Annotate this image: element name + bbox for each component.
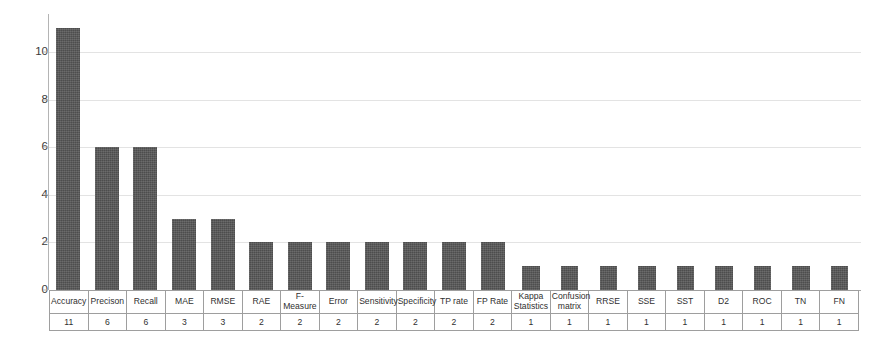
bar [792, 266, 809, 290]
metric-count-cell: 3 [165, 314, 204, 331]
metric-count-label: 6 [128, 317, 164, 327]
bar [561, 266, 578, 290]
data-table-body: AccuracyPrecisonRecallMAERMSERAEF-Measur… [50, 291, 859, 331]
bar [522, 266, 539, 290]
metric-name-label: TP rate [436, 297, 472, 307]
metric-name-row: AccuracyPrecisonRecallMAERMSERAEF-Measur… [50, 291, 859, 314]
metric-count-cell: 1 [704, 314, 743, 331]
metric-count-label: 2 [321, 317, 357, 327]
metric-name-cell: MAE [165, 291, 204, 314]
metric-name-label: Error [321, 297, 357, 307]
metric-name-cell: F-Measure [281, 291, 320, 314]
metric-name-label: Recall [128, 297, 164, 307]
metric-count-label: 11 [51, 317, 87, 327]
metric-count-label: 1 [821, 317, 857, 327]
metric-name-label: F-Measure [282, 292, 318, 312]
metric-count-cell: 6 [88, 314, 127, 331]
bar [288, 242, 312, 290]
metric-name-cell: Accuracy [50, 291, 89, 314]
metric-name-label: Precison [90, 297, 126, 307]
metric-count-cell: 1 [627, 314, 666, 331]
metric-name-label: RAE [244, 297, 280, 307]
metric-count-cell: 2 [319, 314, 358, 331]
data-table: AccuracyPrecisonRecallMAERMSERAEF-Measur… [49, 290, 859, 331]
y-axis: 0246810 [26, 14, 48, 290]
y-axis-tick [43, 147, 48, 148]
metric-name-label: Specificity [398, 297, 434, 307]
bar [56, 28, 80, 290]
y-axis-tick [43, 99, 48, 100]
metric-name-cell: FN [820, 291, 859, 314]
metric-name-cell: RRSE [589, 291, 628, 314]
metric-name-label: FN [821, 297, 857, 307]
metric-name-cell: RMSE [204, 291, 243, 314]
bar [365, 242, 389, 290]
metric-name-cell: Kappa Statistics [512, 291, 551, 314]
metric-name-label: MAE [167, 297, 203, 307]
metric-count-cell: 2 [435, 314, 474, 331]
metric-count-label: 2 [398, 317, 434, 327]
metric-name-cell: SSE [627, 291, 666, 314]
y-axis-tick [43, 290, 48, 291]
metric-name-label: RRSE [590, 297, 626, 307]
metric-count-label: 2 [282, 317, 318, 327]
metric-name-label: Accuracy [51, 297, 87, 307]
metric-name-cell: TP rate [435, 291, 474, 314]
metric-count-cell: 1 [550, 314, 589, 331]
bar-chart: 0246810 AccuracyPrecisonRecallMAERMSERAE… [0, 0, 885, 363]
metric-name-cell: Specificity [396, 291, 435, 314]
metric-name-cell: Error [319, 291, 358, 314]
bar [326, 242, 350, 290]
bar [442, 242, 466, 290]
metric-count-label: 1 [706, 317, 742, 327]
metric-count-label: 3 [167, 317, 203, 327]
metric-count-cell: 2 [358, 314, 397, 331]
bar [600, 266, 617, 290]
metric-name-cell: Precison [88, 291, 127, 314]
metric-count-label: 2 [244, 317, 280, 327]
metric-name-label: D2 [706, 297, 742, 307]
bar [831, 266, 848, 290]
metric-name-cell: ROC [743, 291, 782, 314]
bar [211, 219, 235, 290]
metric-count-label: 1 [513, 317, 549, 327]
metric-name-cell: TN [781, 291, 820, 314]
metric-count-row: 1166332222222111111111 [50, 314, 859, 331]
metric-count-cell: 2 [396, 314, 435, 331]
metric-count-cell: 1 [820, 314, 859, 331]
bar [133, 147, 157, 290]
bar [754, 266, 771, 290]
bar [638, 266, 655, 290]
metric-name-label: SSE [629, 297, 665, 307]
metric-name-cell: SST [666, 291, 705, 314]
plot-region: 0246810 [26, 14, 861, 290]
bar [95, 147, 119, 290]
metric-count-cell: 2 [242, 314, 281, 331]
metric-count-label: 2 [475, 317, 511, 327]
bar [715, 266, 732, 290]
metric-name-label: TN [783, 297, 819, 307]
bar [677, 266, 694, 290]
metric-count-cell: 1 [666, 314, 705, 331]
y-axis-tick [43, 194, 48, 195]
metric-name-label: SST [667, 297, 703, 307]
y-axis-tick [43, 242, 48, 243]
metric-name-cell: FP Rate [473, 291, 512, 314]
metric-name-cell: Confusion matrix [550, 291, 589, 314]
metric-count-label: 3 [205, 317, 241, 327]
metric-count-cell: 3 [204, 314, 243, 331]
metric-count-cell: 6 [127, 314, 166, 331]
bars-layer [49, 14, 861, 290]
metric-name-cell: RAE [242, 291, 281, 314]
metric-count-cell: 1 [589, 314, 628, 331]
metric-count-label: 2 [436, 317, 472, 327]
metric-name-label: Sensitivity [359, 297, 395, 307]
metric-name-cell: Recall [127, 291, 166, 314]
metric-name-label: Confusion matrix [552, 292, 588, 312]
bar [172, 219, 196, 290]
bar [403, 242, 427, 290]
metric-count-cell: 2 [281, 314, 320, 331]
metric-count-label: 1 [629, 317, 665, 327]
metric-count-cell: 1 [743, 314, 782, 331]
metric-name-cell: D2 [704, 291, 743, 314]
